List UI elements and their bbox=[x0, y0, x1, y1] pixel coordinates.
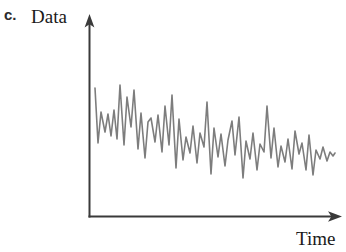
figure-panel: c. Data Time bbox=[0, 0, 346, 252]
data-series-line bbox=[95, 85, 335, 178]
plot-area bbox=[0, 0, 346, 252]
